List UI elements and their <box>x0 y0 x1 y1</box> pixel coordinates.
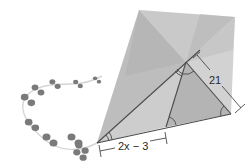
dim-base-line-left <box>100 148 115 151</box>
base-segment-label: 2x − 3 <box>118 140 148 152</box>
dim-base-line-right <box>150 138 166 141</box>
dim-21-tick-bottom <box>235 104 245 113</box>
tail-bow <box>25 119 39 131</box>
tail-bow <box>43 134 58 147</box>
kite-diagram: 21 2x − 3 <box>0 0 251 168</box>
kite-tail <box>21 76 102 161</box>
tail-bow <box>68 134 83 147</box>
side-length-label: 21 <box>209 74 221 86</box>
